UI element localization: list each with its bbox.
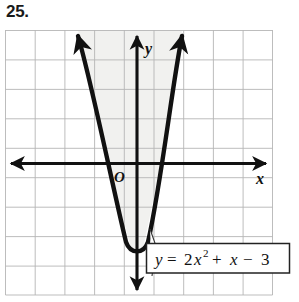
x-axis-label: x <box>255 170 264 187</box>
callout-equation-minus: − <box>243 250 253 269</box>
origin-label: O <box>114 169 125 185</box>
callout-equation-y: y <box>153 250 163 269</box>
callout-equation-equals: = <box>167 250 177 269</box>
callout-equation-exponent: 2 <box>203 247 209 259</box>
callout-equation-coefficient: 2 <box>184 250 193 269</box>
callout-equation-variable: x <box>193 250 202 269</box>
callout-equation-constant: 3 <box>261 250 270 269</box>
worksheet-page: 25. <box>0 0 299 302</box>
callout-equation-plus: + <box>212 250 222 269</box>
y-axis-label: y <box>143 40 153 58</box>
equation-callout: y = 2 x 2 + x − 3 <box>147 244 290 274</box>
problem-number: 25. <box>6 2 29 22</box>
graph-figure: y x O y = 2 x 2 + x − 3 <box>0 24 299 302</box>
callout-equation-linear-variable: x <box>229 250 238 269</box>
